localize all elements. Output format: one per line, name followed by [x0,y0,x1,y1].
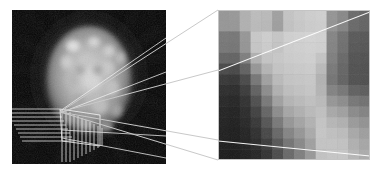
pixel-noise [218,10,370,160]
figure-root [0,0,385,174]
brain-scan-panel [12,10,166,164]
pixel-heatmap [218,10,370,160]
magnified-pixel-panel [218,10,370,160]
brain-scan-image [12,10,166,164]
